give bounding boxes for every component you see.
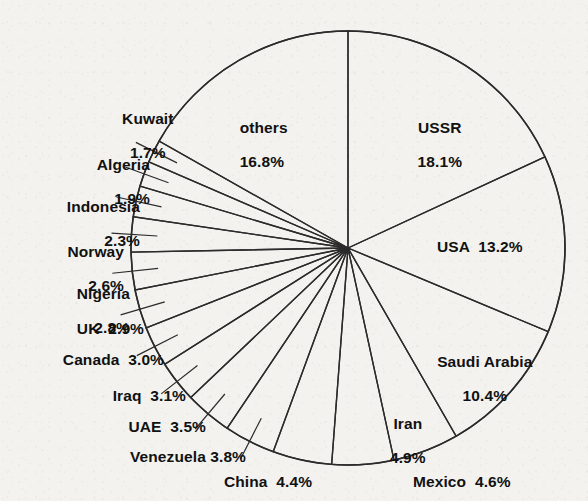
slice-label-others-value: 16.8%: [240, 153, 284, 170]
slice-label-uae: UAE 3.5%: [46, 418, 206, 435]
slice-label-iran: Iran 4.9%: [369, 398, 429, 483]
slice-label-saudi-name: Saudi Arabia: [437, 353, 532, 370]
slice-label-ussr-name: USSR: [418, 119, 461, 136]
slice-label-saudi-value: 10.4%: [463, 387, 507, 404]
slice-label-ussr: USSR 18.1%: [386, 102, 476, 187]
slice-label-norway-value: 2.6%: [88, 277, 124, 294]
slice-label-kuwait: Kuwait 1.7%: [84, 93, 194, 178]
slice-label-mexico: Mexico 4.6%: [413, 473, 553, 490]
slice-label-usa: USA 13.2%: [437, 238, 567, 255]
slice-label-ussr-value: 18.1%: [418, 153, 462, 170]
slice-label-nigeria-value: 2.8%: [94, 319, 130, 336]
slice-label-others: others 16.8%: [222, 102, 322, 187]
figure-canvas: Oil USSR 18.1% others 16.8% USA 13.2% Sa…: [0, 0, 588, 501]
slice-label-china: China 4.4%: [224, 473, 354, 490]
pie-slice-venezuela: [227, 248, 348, 452]
slice-label-iraq: Iraq 3.1%: [26, 387, 186, 404]
slice-label-venezuela: Venezuela 3.8%: [56, 448, 246, 465]
slice-label-others-name: others: [240, 119, 288, 136]
slice-label-iran-name: Iran: [393, 415, 422, 432]
slice-label-iran-value: 4.9%: [390, 449, 426, 466]
slice-label-indonesia-value: 2.3%: [104, 232, 140, 249]
slice-label-canada: Canada 3.0%: [4, 351, 164, 368]
slice-label-kuwait-name: Kuwait: [122, 110, 173, 127]
slice-label-algeria-value: 1.9%: [114, 190, 150, 207]
pie-slice-canada: [146, 248, 348, 364]
slice-label-kuwait-value: 1.7%: [130, 144, 166, 161]
